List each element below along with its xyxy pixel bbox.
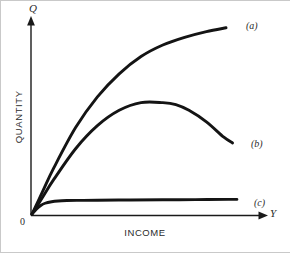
curves-group (32, 28, 237, 214)
curve-label-a: (a) (246, 21, 258, 31)
curve-c (32, 199, 237, 214)
x-axis-symbol: Y (270, 208, 276, 219)
curve-label-c: (c) (254, 198, 265, 208)
x-axis-title: INCOME (0, 228, 290, 238)
y-axis-title: QUANTITY (14, 72, 24, 162)
y-axis-symbol: Q (29, 3, 37, 14)
curve-label-b: (b) (251, 139, 263, 149)
plot-area (0, 0, 290, 253)
curve-b (32, 102, 233, 214)
axes-group (27, 16, 268, 219)
curve-a (32, 28, 226, 214)
y-axis-arrow-icon (27, 16, 35, 26)
engel-curve-figure: Q Y 0 INCOME QUANTITY (a) (b) (c) (0, 0, 290, 253)
x-axis-arrow-icon (259, 212, 269, 220)
origin-label: 0 (20, 217, 25, 227)
